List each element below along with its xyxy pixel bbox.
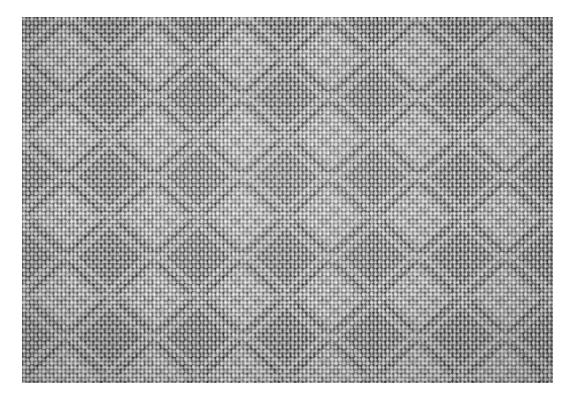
fabric-swatch-photograph [22, 17, 553, 383]
image-canvas [0, 0, 577, 401]
photographic-vignette-layer [22, 17, 553, 383]
image-caption [22, 386, 553, 398]
